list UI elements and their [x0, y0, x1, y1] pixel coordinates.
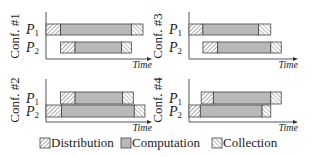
collection-segment [262, 105, 271, 117]
panel-conf2: Conf. #2TimeP1P2 [7, 77, 153, 133]
distribution-segment [61, 42, 76, 53]
configurations-diagram: Conf. #1TimeP1P2Conf. #3TimeP1P2Conf. #2… [0, 0, 313, 157]
collection-segment [259, 24, 271, 35]
legend-label-computation: Computation [132, 135, 200, 150]
distribution-segment [61, 92, 76, 104]
timeline-row-p1 [61, 92, 134, 104]
distribution-segment [189, 24, 203, 35]
panel-title: Conf. #2 [7, 77, 22, 123]
timeline-row-p2 [61, 42, 132, 53]
distribution-segment [189, 105, 200, 117]
distribution-segment [203, 42, 218, 53]
panel-conf1: Conf. #1TimeP1P2 [7, 12, 153, 70]
computation-segment [203, 24, 259, 35]
computation-segment [200, 105, 262, 117]
time-axis-label: Time [133, 59, 153, 70]
computation-segment [218, 42, 271, 53]
panel-title: Conf. #3 [150, 13, 165, 59]
legend-swatch-collection [212, 138, 222, 148]
computation-segment [62, 105, 135, 117]
panel-title: Conf. #1 [7, 13, 22, 59]
time-axis-label: Time [279, 59, 299, 70]
computation-segment [75, 42, 122, 53]
legend-swatch-distribution [40, 138, 50, 148]
panel-conf3: Conf. #3TimeP1P2 [150, 12, 299, 70]
legend-label-collection: Collection [223, 135, 278, 150]
collection-segment [271, 42, 281, 53]
computation-segment [213, 92, 270, 104]
panel-title: Conf. #4 [150, 77, 165, 123]
timeline-row-p1 [46, 24, 143, 35]
computation-segment [75, 92, 123, 104]
legend-swatch-computation [121, 138, 131, 148]
timeline-row-p2 [46, 105, 145, 117]
process-label-p2: P2 [25, 40, 39, 56]
time-axis-label: Time [279, 122, 299, 133]
timeline-row-p1 [201, 92, 281, 104]
process-label-p1: P1 [168, 22, 182, 38]
timeline-row-p2 [189, 105, 271, 117]
legend-label-distribution: Distribution [51, 135, 114, 150]
collection-segment [123, 92, 134, 104]
distribution-segment [46, 24, 61, 35]
collection-segment [131, 24, 143, 35]
panel-conf4: Conf. #4TimeP1P2 [150, 77, 299, 133]
collection-segment [134, 105, 145, 117]
collection-segment [271, 92, 281, 104]
computation-segment [61, 24, 132, 35]
timeline-row-p2 [203, 42, 281, 53]
timeline-row-p1 [189, 24, 271, 35]
distribution-segment [46, 105, 62, 117]
process-label-p2: P2 [168, 40, 182, 56]
legend: Distribution Computation Collection [40, 135, 278, 150]
process-label-p1: P1 [25, 22, 39, 38]
distribution-segment [201, 92, 213, 104]
collection-segment [122, 42, 132, 53]
